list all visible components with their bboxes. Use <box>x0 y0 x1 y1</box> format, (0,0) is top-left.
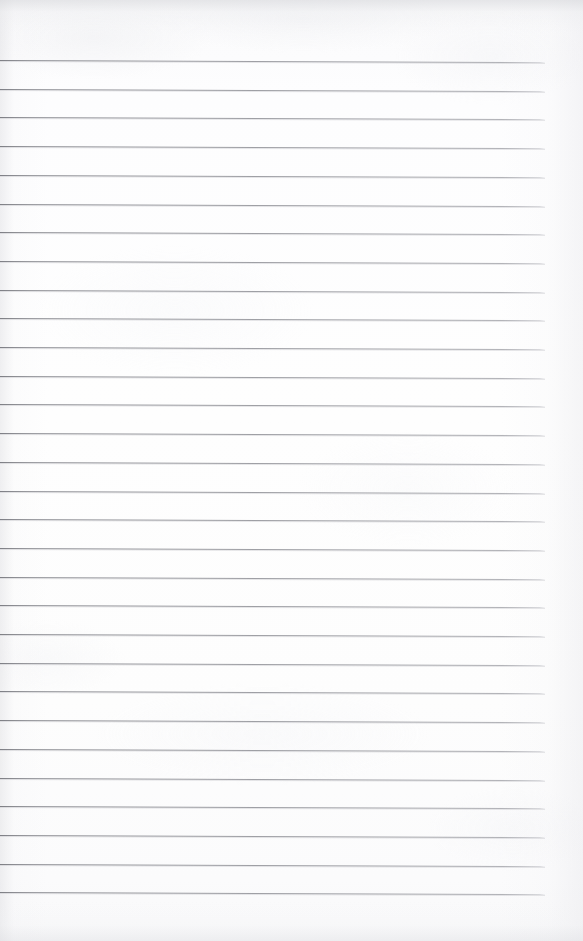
scanned-page <box>0 0 583 941</box>
paper-background <box>0 0 583 941</box>
